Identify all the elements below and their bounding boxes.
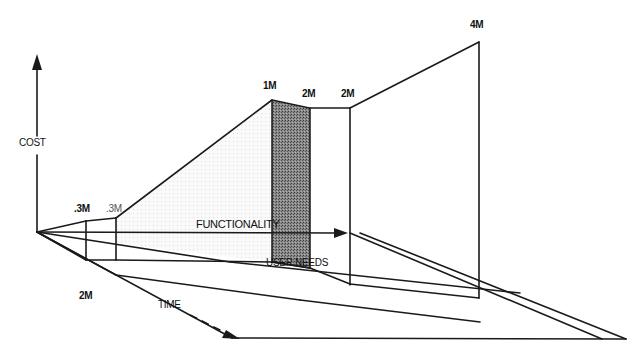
cost-label-5: 2M [341, 88, 354, 99]
time-arrowhead [222, 330, 240, 339]
functionality-arrowhead [334, 228, 348, 238]
time-value-label: 2M [79, 290, 92, 301]
cost-arrowhead [32, 54, 42, 70]
shaded-band [272, 100, 310, 268]
functionality-axis [37, 232, 340, 233]
cost-label-3: 1M [263, 80, 276, 91]
cost-axis-label: COST [19, 137, 46, 148]
cost-label-2: .3M [106, 203, 122, 214]
time-axis-label: TIME [158, 299, 181, 310]
cost-functionality-diagram [0, 0, 641, 356]
cost-label-4: 2M [302, 88, 315, 99]
user-needs-label: USER NEEDS [266, 257, 328, 268]
cost-label-6: 4M [470, 19, 483, 30]
time-axis [190, 315, 230, 335]
cost-label-1: .3M [74, 203, 90, 214]
cost-surface-left [116, 100, 272, 262]
functionality-axis-label: FUNCTIONALITY [196, 218, 280, 230]
